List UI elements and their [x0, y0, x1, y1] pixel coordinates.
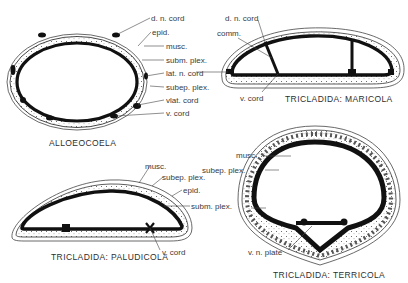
title-maricola: TRICLADIDA: MARICOLA — [285, 94, 393, 104]
label-paludicola-musc: musc. — [145, 162, 166, 171]
label-maricola-v-cord: v. cord — [240, 94, 263, 103]
label-maricola-comm: comm. — [217, 29, 241, 38]
label-terricola-musc: musc. — [236, 151, 257, 160]
label-alloeocoela-v-cord: v. cord — [166, 109, 189, 118]
label-paludicola-subep-plex: subep. plex. — [162, 173, 205, 182]
label-paludicola-epid: epid. — [183, 186, 200, 195]
label-alloeocoela-lat-n-cord: lat. n. cord — [166, 69, 203, 78]
label-terricola-v-n-plate: v. n. plate — [248, 248, 282, 257]
label-alloeocoela-vlat-cord: vlat. cord — [166, 96, 198, 105]
label-alloeocoela-subep-plex: subep. plex. — [166, 83, 209, 92]
label-alloeocoela-subm-plex: subm. plex. — [166, 56, 207, 65]
title-terricola: TRICLADIDA: TERRICOLA — [273, 270, 385, 280]
label-alloeocoela-musc: musc. — [166, 42, 187, 51]
terricola-section — [238, 126, 400, 265]
label-terricola-subep-plex: subep. plex. — [202, 166, 245, 175]
label-paludicola-subm-plex: subm. plex. — [191, 202, 232, 211]
label-maricola-d-n-cord: d. n. cord — [225, 14, 258, 23]
alloeocoela-section — [7, 18, 164, 130]
title-paludicola: TRICLADIDA: PALUDICOLA — [51, 252, 168, 262]
nervous-system-cross-sections-figure: d. n. cord epid. musc. subm. plex. lat. … — [0, 0, 408, 283]
label-alloeocoela-epid: epid. — [152, 28, 169, 37]
title-alloeocoela: ALLOEOCOELA — [49, 138, 116, 148]
label-alloeocoela-d-n-cord: d. n. cord — [151, 14, 184, 23]
